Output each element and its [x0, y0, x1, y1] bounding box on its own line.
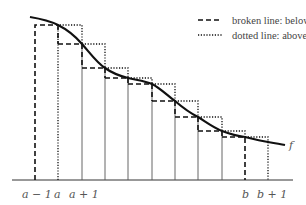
interior-verticals — [82, 44, 222, 180]
tick-b: b — [242, 188, 249, 201]
legend: broken line: below f dotted line: above … — [198, 15, 306, 41]
tick-a-plus-1: a + 1 — [69, 188, 99, 201]
legend-dotted-label: dotted line: above f — [232, 30, 306, 41]
legend-broken-label: broken line: below f — [232, 15, 306, 26]
axis-tick-labels: a − 1 a a + 1 b b + 1 — [22, 188, 287, 201]
tick-b-plus-1: b + 1 — [257, 188, 287, 201]
upper-step-dotted — [58, 25, 268, 180]
tick-a: a — [54, 188, 61, 201]
curve-label-f: f — [288, 139, 295, 152]
tick-a-minus-1: a − 1 — [22, 188, 52, 201]
riemann-sum-diagram: f a − 1 a a + 1 b b + 1 broken line: bel… — [0, 0, 306, 205]
lower-step-dashed — [35, 25, 245, 180]
